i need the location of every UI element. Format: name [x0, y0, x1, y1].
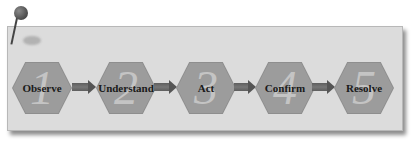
step-confirm: 4 Confirm — [255, 62, 315, 114]
step-resolve: 5 Resolve — [334, 62, 394, 114]
step-label: Confirm — [255, 62, 315, 114]
arrow-right-icon — [154, 80, 177, 94]
arrow-right-icon — [234, 80, 256, 94]
step-act: 3 Act — [176, 62, 236, 114]
step-label: Observe — [12, 62, 72, 114]
arrow-right-icon — [312, 80, 335, 94]
arrow-right-icon — [72, 80, 96, 94]
step-label: Act — [176, 62, 236, 114]
step-observe: 1 Observe — [12, 62, 72, 114]
pin-shadow — [23, 36, 41, 45]
pushpin-icon — [14, 6, 28, 20]
step-label: Understand — [96, 62, 156, 114]
step-understand: 2 Understand — [96, 62, 156, 114]
step-label: Resolve — [334, 62, 394, 114]
